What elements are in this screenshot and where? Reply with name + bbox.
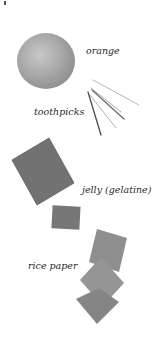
corner-mark-icon [4,1,6,5]
label-jelly: jelly (gelatine) [82,184,151,195]
items-illustration [0,0,163,339]
rice-paper-icon [76,229,127,324]
jelly-icon [12,138,74,205]
orange-icon [17,33,75,89]
label-toothpicks: toothpicks [34,106,84,117]
label-rice-paper: rice paper [28,260,78,271]
label-orange: orange [86,45,120,56]
toothpicks-icon [88,80,139,135]
jelly-small-icon [51,205,80,229]
